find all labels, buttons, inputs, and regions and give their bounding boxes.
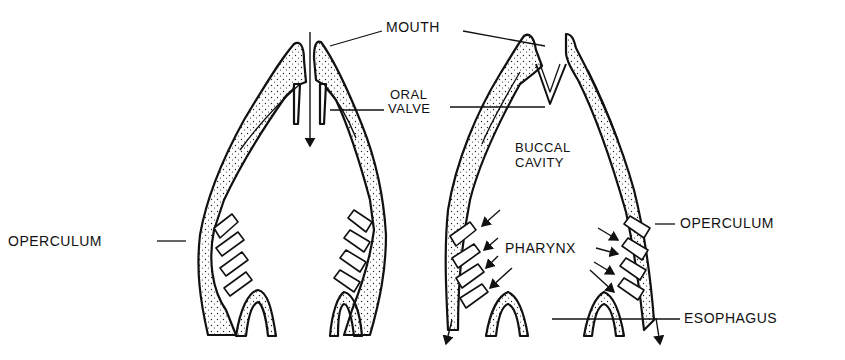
right-panel [446, 34, 654, 336]
label-pharynx: PHARYNX [505, 241, 576, 256]
fish-respiration-diagram [0, 0, 845, 360]
label-oral-valve-line2: VALVE [388, 101, 430, 116]
label-esophagus: ESOPHAGUS [684, 311, 777, 326]
label-buccal-line2: CAVITY [515, 155, 564, 170]
label-mouth: MOUTH [386, 20, 440, 35]
label-operculum-right: OPERCULUM [680, 216, 774, 231]
label-buccal-line1: BUCCAL [515, 140, 571, 155]
left-panel [198, 32, 386, 336]
label-oral-valve-line1: ORAL [390, 87, 427, 102]
label-operculum-left: OPERCULUM [8, 234, 102, 249]
